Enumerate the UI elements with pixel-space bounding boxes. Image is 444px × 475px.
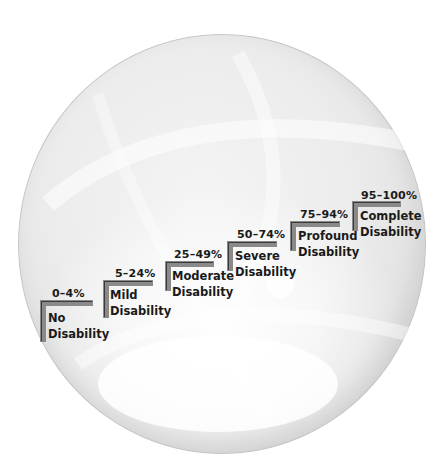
- globe-background: [18, 34, 426, 454]
- step-name: Moderate Disability: [172, 268, 234, 300]
- step-range-label: 0–4%: [52, 287, 85, 300]
- step-range-label: 75–94%: [300, 208, 348, 221]
- step-range-label: 25–49%: [174, 248, 222, 261]
- step-name: Severe Disability: [235, 248, 296, 280]
- step-name: Mild Disability: [110, 287, 171, 319]
- globe-swoosh-highlights: [18, 34, 426, 454]
- step-range-label: 50–74%: [237, 228, 285, 241]
- step-name: Profound Disability: [298, 228, 359, 260]
- step-range-label: 5–24%: [115, 267, 155, 280]
- step-name: No Disability: [48, 310, 109, 342]
- step-name: Complete Disability: [360, 208, 422, 240]
- diagram-canvas: 0–4% No Disability 5–24% Mild Disability…: [0, 0, 444, 475]
